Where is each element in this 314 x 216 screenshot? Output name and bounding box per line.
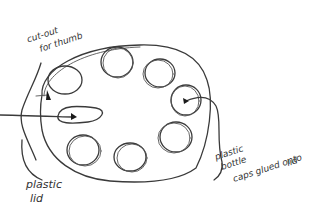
bottle-cap — [160, 122, 192, 152]
arrow-head-icon — [71, 113, 77, 120]
bottle-caps — [48, 47, 201, 172]
bottle-cap-retrace — [143, 60, 173, 88]
lid-label-line2: lid — [30, 192, 44, 205]
bottle-cap-retrace — [117, 144, 147, 172]
cutout-leader-arrow-line — [36, 95, 48, 96]
bottle-cap-retrace — [69, 136, 101, 166]
lid-label-line1: plastic — [25, 178, 62, 191]
lid-label-leader — [22, 140, 42, 180]
arrow-head-icon — [46, 90, 51, 100]
arrow-head-icon — [183, 98, 189, 104]
bottle-cap — [67, 135, 99, 165]
bottle-cap — [48, 66, 82, 94]
sketch-canvas: cut-out for thumb plastic lid plastic bo… — [0, 0, 314, 216]
plastic-lid-outline-retrace — [44, 47, 140, 96]
lid-leader-line — [0, 115, 72, 117]
bottle-cap-retrace — [103, 48, 133, 78]
cutout-leader-line — [21, 63, 41, 160]
thumb-cutout — [58, 106, 103, 123]
bottle-cap — [145, 59, 175, 87]
bottle-cap-retrace — [158, 123, 190, 153]
